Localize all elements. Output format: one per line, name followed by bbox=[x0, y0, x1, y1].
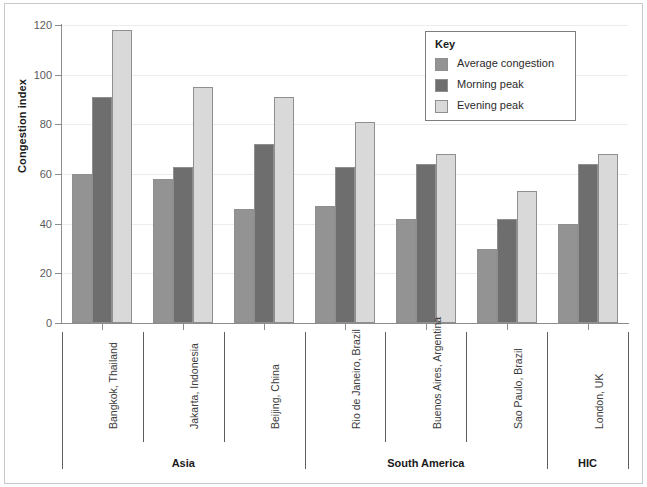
legend-swatch-icon bbox=[435, 58, 448, 71]
y-axis-tick bbox=[55, 174, 62, 175]
region-separator bbox=[62, 332, 63, 469]
category-separator bbox=[143, 332, 144, 442]
bar bbox=[477, 249, 497, 324]
legend-item-label: Average congestion bbox=[457, 57, 554, 69]
bar bbox=[517, 191, 537, 323]
gridline bbox=[62, 124, 628, 125]
x-axis-category-label: Buenos Aires, Argentina bbox=[431, 317, 443, 429]
bar bbox=[335, 167, 355, 323]
category-separator bbox=[385, 332, 386, 442]
x-axis-category-label: London, UK bbox=[593, 374, 605, 429]
legend-item-label: Morning peak bbox=[457, 78, 524, 90]
bar bbox=[193, 87, 213, 323]
bar bbox=[234, 209, 254, 323]
x-axis-tick bbox=[426, 323, 427, 330]
y-axis-tick-label: 20 bbox=[6, 267, 52, 279]
y-axis-tick-label: 80 bbox=[6, 118, 52, 130]
bar bbox=[274, 97, 294, 323]
y-axis-tick bbox=[55, 25, 62, 26]
bar bbox=[72, 174, 92, 323]
y-axis-tick bbox=[55, 124, 62, 125]
bar bbox=[254, 144, 274, 323]
x-axis-category-label: Bangkok, Thailand bbox=[107, 342, 119, 429]
x-axis-category-label: Rio de Janeiro, Brazil bbox=[350, 329, 362, 429]
region-label: HIC bbox=[578, 457, 597, 469]
y-axis-tick bbox=[55, 75, 62, 76]
y-axis-tick bbox=[55, 224, 62, 225]
bar bbox=[173, 167, 193, 323]
chart-page: Congestion index 020406080100120 Bangkok… bbox=[0, 0, 647, 487]
legend-box: Key Average congestionMorning peakEvenin… bbox=[425, 31, 576, 121]
category-separator bbox=[466, 332, 467, 442]
x-axis-tick bbox=[588, 323, 589, 330]
y-axis-ticks: 020406080100120 bbox=[0, 0, 52, 487]
bar bbox=[92, 97, 112, 323]
x-axis-category-label: Jakarta, Indonesia bbox=[188, 343, 200, 429]
region-label: Asia bbox=[172, 457, 195, 469]
y-axis-tick-label: 100 bbox=[6, 69, 52, 81]
y-axis-tick-label: 40 bbox=[6, 218, 52, 230]
legend-swatch-icon bbox=[435, 100, 448, 113]
x-axis-tick bbox=[507, 323, 508, 330]
bar bbox=[315, 206, 335, 323]
y-axis-tick-label: 120 bbox=[6, 19, 52, 31]
bar bbox=[153, 179, 173, 323]
bar bbox=[416, 164, 436, 323]
legend-item-label: Evening peak bbox=[457, 99, 524, 111]
y-axis-tick-label: 60 bbox=[6, 168, 52, 180]
category-separator bbox=[224, 332, 225, 442]
bar bbox=[436, 154, 456, 323]
legend-title: Key bbox=[435, 38, 455, 50]
region-label: South America bbox=[387, 457, 464, 469]
bar bbox=[396, 219, 416, 323]
gridline bbox=[62, 25, 628, 26]
y-axis-tick-label: 0 bbox=[6, 317, 52, 329]
bar bbox=[355, 122, 375, 323]
y-axis-tick bbox=[55, 273, 62, 274]
bar bbox=[578, 164, 598, 323]
y-axis-tick bbox=[55, 323, 62, 324]
bar bbox=[598, 154, 618, 323]
bar bbox=[112, 30, 132, 323]
bar bbox=[497, 219, 517, 323]
region-separator bbox=[628, 332, 629, 469]
bar bbox=[558, 224, 578, 323]
x-axis-tick bbox=[264, 323, 265, 330]
x-axis-category-label: Beijing, China bbox=[269, 364, 281, 429]
legend-swatch-icon bbox=[435, 79, 448, 92]
region-separator bbox=[547, 332, 548, 469]
x-axis-category-label: Sao Paulo, Brazil bbox=[512, 348, 524, 429]
x-axis-tick bbox=[102, 323, 103, 330]
region-separator bbox=[305, 332, 306, 469]
x-axis-tick bbox=[183, 323, 184, 330]
x-axis-tick bbox=[345, 323, 346, 330]
